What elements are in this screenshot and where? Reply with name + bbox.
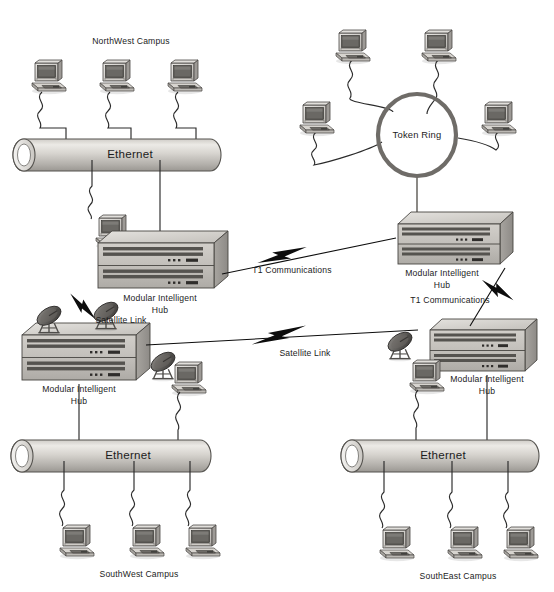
satellite-dish [148,348,179,381]
workstation [168,60,202,94]
label-satellite-southwest-southeast: Satellite Link [279,348,330,360]
label-northwest-campus: NorthWest Campus [92,36,170,48]
workstation [100,60,134,94]
hub-northwest [98,231,228,288]
hub-label-line2: Hub [479,386,495,396]
label-hub-southeast: Modular Intelligent Hub [450,374,524,397]
workstation [300,102,334,136]
label-ethernet-northwest: Ethernet [107,148,153,160]
hub-label-line1: Modular Intelligent [450,374,524,384]
workstation [32,60,66,94]
workstation [448,527,482,561]
label-token-ring: Token Ring [393,129,442,141]
workstation [482,102,516,136]
hub-label-line2: Hub [434,280,450,290]
label-ethernet-southwest: Ethernet [105,449,151,461]
label-t1-tokenring-southeast: T1 Communications [410,295,489,307]
satellite-dish [385,328,416,361]
hub-label-line2: Hub [71,396,87,406]
link-satellite-northwest-southwest [70,289,95,325]
label-hub-northwest: Modular Intelligent Hub [123,293,197,316]
label-southeast-campus: SouthEast Campus [420,571,497,583]
workstation [60,525,94,559]
hub-southwest [22,323,150,380]
hub-label-line2: Hub [152,305,168,315]
cable-group-tokenring [312,60,499,165]
hub-label-line1: Modular Intelligent [405,268,479,278]
label-t1-northwest-tokenring: T1 Communications [252,265,331,277]
hub-tokenring [398,212,513,264]
workstation [336,30,370,64]
network-diagram: NorthWest Campus Ethernet Token Ring Mod… [0,0,554,592]
workstation [130,525,164,559]
workstation [380,527,414,561]
label-southwest-campus: SouthWest Campus [99,569,178,581]
hub-label-line1: Modular Intelligent [42,384,116,394]
label-hub-tokenring: Modular Intelligent Hub [405,268,479,291]
label-hub-southwest: Modular Intelligent Hub [42,384,116,407]
hub-southeast [430,319,537,371]
workstation [186,525,220,559]
label-satellite-northwest-southwest: Satellite Link [95,315,146,327]
link-satellite-southwest-southeast [146,326,418,345]
workstation [410,360,444,394]
label-ethernet-southeast: Ethernet [420,449,466,461]
workstation [172,362,206,396]
workstation [504,527,538,561]
hub-label-line1: Modular Intelligent [123,293,197,303]
workstation [422,30,456,64]
